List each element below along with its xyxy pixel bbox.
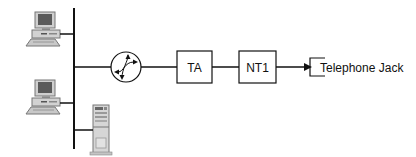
- telephone-jack-label: Telephone Jack: [320, 61, 404, 75]
- desktop-computer-icon: [26, 80, 60, 114]
- arrowhead-icon: [304, 63, 312, 71]
- desktop-computer-icon: [26, 12, 60, 46]
- nt1-box: NT1: [239, 51, 276, 83]
- ta-label: TA: [187, 61, 201, 75]
- server-tower-icon: [90, 105, 112, 155]
- router-icon: [111, 52, 141, 82]
- terminal-adapter-box: TA: [177, 51, 212, 83]
- network-diagram: TA NT1 Telephone Jack: [0, 0, 416, 157]
- nt1-label: NT1: [246, 61, 269, 75]
